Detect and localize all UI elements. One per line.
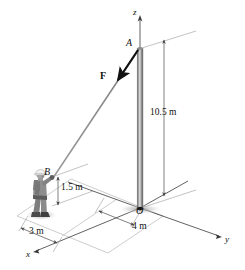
- label-dimension-y-offset: 4 m: [132, 222, 147, 232]
- dimension-pole-height: [142, 31, 196, 207]
- label-point-O: O: [136, 206, 143, 216]
- label-axis-z: z: [133, 8, 137, 17]
- pole: [137, 47, 144, 210]
- worker-figure: [24, 170, 58, 221]
- label-force-F: F: [100, 71, 106, 81]
- label-axis-y: y: [225, 235, 229, 244]
- label-point-A: A: [126, 38, 132, 48]
- label-dimension-x-offset: 3 m: [29, 227, 44, 237]
- label-dimension-hand-height: 1.5 m: [61, 183, 83, 193]
- label-point-B: B: [44, 167, 50, 177]
- force-vector-F: [118, 50, 138, 80]
- label-axis-x: x: [26, 250, 30, 259]
- statics-diagram-figure: A B O z x y F 10.5 m 1.5 m 3 m 4 m: [0, 0, 245, 270]
- label-dimension-pole-height: 10.5 m: [150, 108, 176, 118]
